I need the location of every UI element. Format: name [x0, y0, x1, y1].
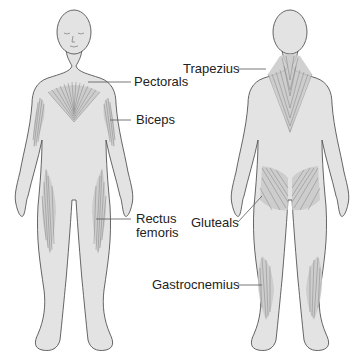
front-figure [15, 10, 133, 351]
gastrocnemius-muscle [258, 256, 322, 320]
front-head [57, 10, 91, 54]
label-gluteals: Gluteals [191, 216, 239, 230]
back-figure [231, 10, 349, 351]
label-pectorals: Pectorals [134, 75, 188, 89]
muscle-diagram [0, 0, 359, 364]
label-biceps: Biceps [136, 113, 175, 127]
label-trapezius: Trapezius [183, 62, 240, 76]
back-head [273, 10, 307, 54]
label-rectus-femoris-line2: femoris [136, 226, 179, 240]
label-rectus-femoris-line1: Rectus [136, 212, 176, 226]
label-gastrocnemius: Gastrocnemius [152, 278, 239, 292]
